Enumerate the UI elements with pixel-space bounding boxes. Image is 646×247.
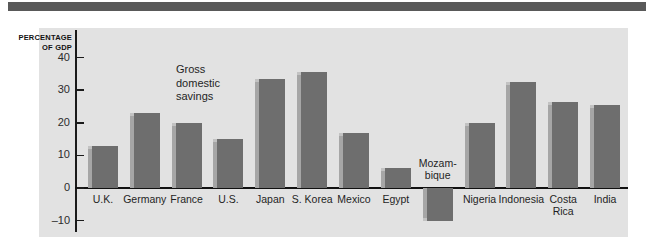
y-tick-label: 40 [42,52,70,63]
bar-front-face [217,139,243,188]
chart-figure: PERCENTAGE OF GDP 403020100–10 U.K.Germa… [0,0,646,247]
bar-front-face [343,133,369,188]
x-axis-label: Egypt [371,194,421,206]
y-tick-label: 20 [42,117,70,128]
bar [506,82,536,188]
bar-front-face [134,113,160,188]
bar-front-face [594,105,620,188]
bar [590,105,620,188]
y-tick-mark [77,187,84,189]
y-tick-label: 30 [42,84,70,95]
bar-front-face [510,82,536,188]
bar-front-face [92,146,118,188]
bar [548,102,578,188]
y-tick-mark [77,57,84,59]
y-tick-label: 0 [42,182,70,193]
bar [172,123,202,188]
y-axis-line [75,30,77,232]
y-tick-label: –10 [42,215,70,226]
y-axis-title: PERCENTAGE OF GDP [8,33,72,52]
bar-front-face [259,79,285,188]
bar-front-face [301,72,327,188]
x-axis-label: India [580,194,630,206]
bar [297,72,327,188]
chart-annotation: Gross domestic savings [176,63,220,104]
bar [423,188,453,221]
bar-front-face [427,188,453,221]
bar [255,79,285,188]
bar [213,139,243,188]
y-tick-mark [77,155,84,157]
bar-front-face [176,123,202,188]
bar [130,113,160,188]
bar [88,146,118,188]
bar-front-face [469,123,495,188]
y-tick-label: 10 [42,149,70,160]
y-tick-mark [77,89,84,91]
y-tick-mark [77,220,84,222]
y-tick-mark [77,122,84,124]
header-rule [8,2,646,11]
bar [381,168,411,188]
bar [465,123,495,188]
bar-front-face [385,168,411,188]
bar-front-face [552,102,578,188]
bar [339,133,369,188]
x-axis-label: Mozam- bique [413,158,463,181]
